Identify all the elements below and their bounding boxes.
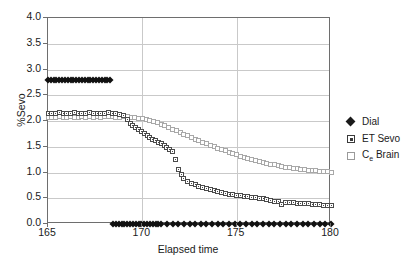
y-axis-tick-label: 0.5 [7, 191, 41, 202]
open-square-icon [345, 150, 357, 162]
y-axis-tick-mark [43, 120, 47, 121]
y-axis-tick-mark [43, 94, 47, 95]
x-axis-tick-label: 170 [121, 227, 161, 238]
y-axis-tick-label: 2.0 [7, 114, 41, 125]
x-axis-tick-mark [141, 223, 142, 227]
chart-figure: %Sevo 0.00.51.01.52.02.53.03.54.01651701… [0, 0, 416, 267]
x-axis-tick-label: 175 [216, 227, 256, 238]
x-axis-tick-label: 165 [27, 227, 67, 238]
x-axis-tick-label: 180 [310, 227, 350, 238]
y-axis-tick-mark [43, 43, 47, 44]
x-axis-tick-mark [47, 223, 48, 227]
chart-legend: Dial ET Sevo Ce Brain [345, 113, 415, 164]
y-axis-tick-label: 2.5 [7, 88, 41, 99]
legend-item-dial[interactable]: Dial [345, 113, 415, 130]
y-axis-tick-mark [43, 146, 47, 147]
x-axis-title: Elapsed time [108, 243, 268, 255]
dotted-square-icon [345, 133, 357, 145]
y-axis-tick-mark [43, 172, 47, 173]
y-axis-tick-label: 3.5 [7, 37, 41, 48]
y-axis-tick-label: 4.0 [7, 11, 41, 22]
x-axis-tick-mark [236, 223, 237, 227]
y-axis-tick-mark [43, 17, 47, 18]
legend-label-ce-brain: Ce Brain [362, 149, 399, 162]
y-axis-tick-label: 3.0 [7, 63, 41, 74]
y-axis-tick-mark [43, 197, 47, 198]
x-axis-tick-mark [330, 223, 331, 227]
legend-label-et-sevo: ET Sevo [362, 133, 400, 144]
legend-label-dial: Dial [362, 116, 379, 127]
y-axis-tick-mark [43, 69, 47, 70]
filled-diamond-icon [345, 116, 357, 128]
y-axis-tick-label: 1.5 [7, 140, 41, 151]
y-axis-tick-label: 1.0 [7, 166, 41, 177]
legend-item-ce-brain[interactable]: Ce Brain [345, 147, 415, 164]
legend-item-et-sevo[interactable]: ET Sevo [345, 130, 415, 147]
